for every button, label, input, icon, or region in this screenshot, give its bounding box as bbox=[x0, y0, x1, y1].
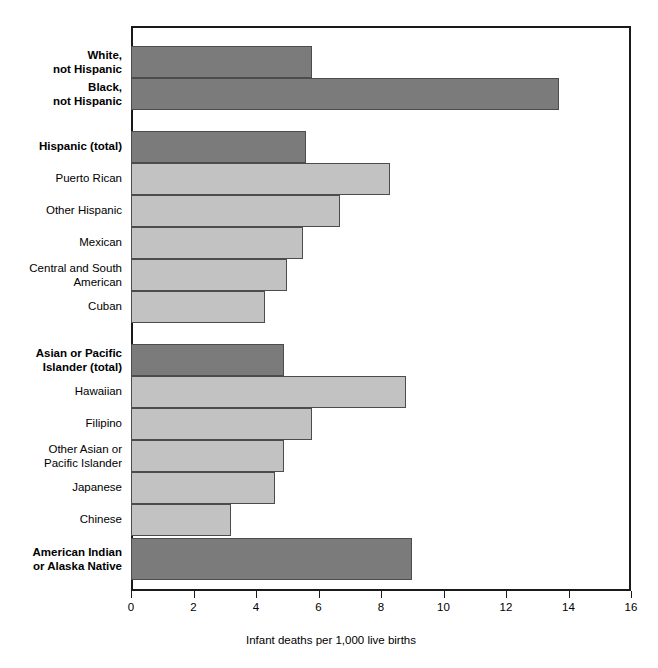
category-label: Puerto Rican bbox=[56, 172, 122, 186]
bar bbox=[131, 227, 303, 259]
category-label: Cuban bbox=[88, 300, 122, 314]
x-axis-ticks bbox=[131, 591, 631, 598]
bar bbox=[131, 163, 390, 195]
category-label: Hispanic (total) bbox=[39, 140, 122, 154]
axis-tick bbox=[569, 591, 570, 598]
axis-tick bbox=[194, 591, 195, 598]
axis-tick-label: 2 bbox=[190, 600, 196, 614]
category-label: White, not Hispanic bbox=[53, 49, 122, 76]
axis-tick-label: 16 bbox=[625, 600, 638, 614]
axis-tick bbox=[319, 591, 320, 598]
category-label: Chinese bbox=[80, 513, 122, 527]
category-label: Hawaiian bbox=[75, 385, 122, 399]
bar bbox=[131, 78, 559, 110]
category-label: Other Hispanic bbox=[46, 204, 122, 218]
x-axis-tick-labels: 0246810121416 bbox=[0, 600, 658, 618]
bar bbox=[131, 408, 312, 440]
axis-tick bbox=[381, 591, 382, 598]
bar bbox=[131, 504, 231, 536]
category-label: Black, not Hispanic bbox=[53, 81, 122, 108]
axis-tick bbox=[256, 591, 257, 598]
axis-tick-label: 0 bbox=[128, 600, 134, 614]
bar bbox=[131, 131, 306, 163]
category-label: Japanese bbox=[72, 481, 122, 495]
axis-tick-label: 6 bbox=[315, 600, 321, 614]
bar bbox=[131, 344, 284, 376]
bar bbox=[131, 376, 406, 408]
axis-tick-label: 14 bbox=[562, 600, 575, 614]
bar bbox=[131, 195, 340, 227]
axis-tick bbox=[131, 591, 132, 598]
bar bbox=[131, 46, 312, 78]
axis-tick-label: 4 bbox=[253, 600, 259, 614]
bars-layer bbox=[131, 26, 631, 591]
category-labels: White, not HispanicBlack, not HispanicHi… bbox=[0, 26, 128, 591]
bar bbox=[131, 259, 287, 291]
category-label: Other Asian or Pacific Islander bbox=[44, 443, 122, 470]
axis-tick-label: 8 bbox=[378, 600, 384, 614]
category-label: Mexican bbox=[79, 236, 122, 250]
x-axis-title-text: Infant deaths per 1,000 live births bbox=[246, 634, 416, 646]
axis-tick bbox=[444, 591, 445, 598]
bar bbox=[131, 472, 275, 504]
category-label: American Indian or Alaska Native bbox=[33, 546, 122, 573]
axis-tick-label: 10 bbox=[437, 600, 450, 614]
infant-mortality-bar-chart: White, not HispanicBlack, not HispanicHi… bbox=[0, 0, 658, 668]
bar bbox=[131, 538, 412, 580]
category-label: Central and South American bbox=[29, 262, 122, 289]
axis-tick bbox=[506, 591, 507, 598]
category-label: Filipino bbox=[86, 417, 122, 431]
x-axis-title: Infant deaths per 1,000 live births bbox=[0, 634, 658, 646]
bar bbox=[131, 291, 265, 323]
axis-tick bbox=[631, 591, 632, 598]
axis-tick-label: 12 bbox=[500, 600, 513, 614]
category-label: Asian or Pacific Islander (total) bbox=[36, 347, 122, 374]
bar bbox=[131, 440, 284, 472]
